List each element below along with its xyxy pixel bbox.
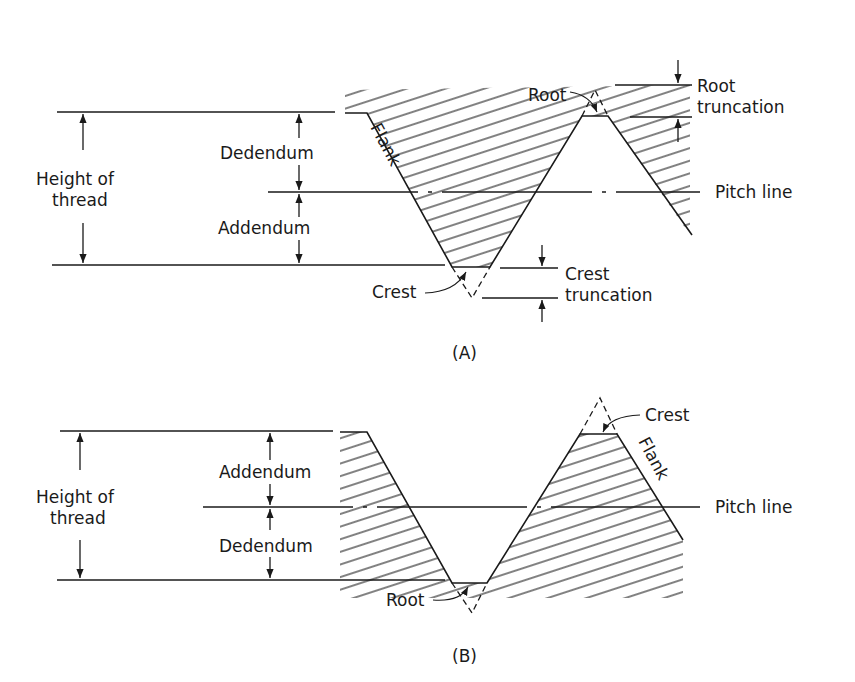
height-label-1-b: Height of xyxy=(36,487,115,507)
crest-leader-a xyxy=(425,272,466,293)
caption-b: (B) xyxy=(452,646,477,666)
height-label-1-a: Height of xyxy=(36,169,115,189)
height-label-2-b: thread xyxy=(50,508,106,528)
root-label-a: Root xyxy=(528,85,567,105)
crest-truncation-label-1: Crest xyxy=(565,264,610,284)
height-label-2-a: thread xyxy=(52,190,108,210)
pitch-line-label-b: Pitch line xyxy=(715,497,792,517)
root-truncation-label-1: Root xyxy=(697,76,736,96)
dedendum-label-b: Dedendum xyxy=(219,536,313,556)
thread-material-a xyxy=(345,85,690,267)
figure-b xyxy=(57,398,700,613)
dedendum-label-a: Dedendum xyxy=(220,143,314,163)
crest-label-a: Crest xyxy=(372,282,417,302)
addendum-label-a: Addendum xyxy=(218,218,310,238)
thread-material-b-left xyxy=(340,432,458,598)
crest-truncation-label-2: truncation xyxy=(565,285,653,305)
crest-label-b: Crest xyxy=(645,405,690,425)
root-label-b: Root xyxy=(386,590,425,610)
caption-a: (A) xyxy=(452,343,477,363)
crest-sharp-v-dashed-b xyxy=(580,398,617,434)
root-truncation-label-2: truncation xyxy=(697,97,785,117)
pitch-line-label-a: Pitch line xyxy=(715,182,792,202)
addendum-label-b: Addendum xyxy=(219,462,311,482)
